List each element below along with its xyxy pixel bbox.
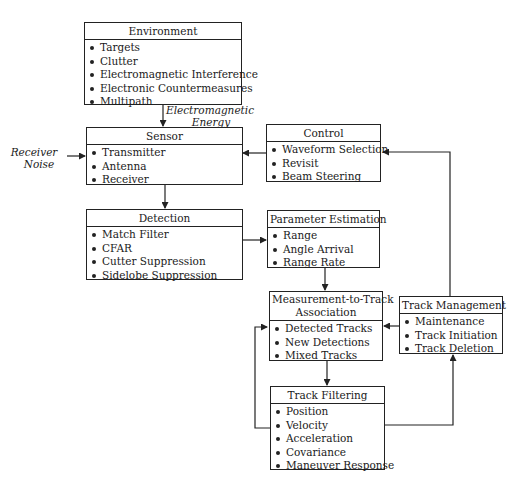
control-items: Waveform Selection Revisit Beam Steering — [267, 142, 380, 185]
sensor-title: Sensor — [87, 128, 242, 145]
em-energy-label: Electromagnetic Energy — [166, 104, 242, 128]
arrow-management-to-control — [383, 152, 450, 296]
association-title: Measurement-to-Track Association — [270, 292, 382, 321]
list-item: Covariance — [275, 446, 384, 460]
list-item: Sidelobe Suppression — [91, 269, 242, 283]
track-management-box: Track Management Maintenance Track Initi… — [399, 296, 503, 354]
list-item: Waveform Selection — [271, 143, 380, 157]
list-item: Range Rate — [272, 256, 379, 270]
list-item: Targets — [89, 41, 241, 55]
track-filtering-title: Track Filtering — [271, 387, 384, 404]
list-item: Antenna — [91, 160, 242, 174]
list-item: New Detections — [274, 336, 382, 350]
list-item: Maneuver Response — [275, 459, 384, 473]
list-item: Position — [275, 405, 384, 419]
list-item: Clutter — [89, 55, 241, 69]
parameter-estimation-title: Parameter Estimation — [268, 211, 379, 228]
sensor-box: Sensor Transmitter Antenna Receiver — [86, 127, 243, 185]
control-box: Control Waveform Selection Revisit Beam … — [266, 124, 381, 182]
track-management-title: Track Management — [400, 297, 502, 314]
arrow-filtering-to-association — [255, 327, 270, 428]
list-item: Transmitter — [91, 146, 242, 160]
list-item: Mixed Tracks — [274, 349, 382, 363]
connector-lines — [0, 0, 529, 496]
list-item: Receiver — [91, 173, 242, 187]
list-item: Velocity — [275, 419, 384, 433]
detection-box: Detection Match Filter CFAR Cutter Suppr… — [86, 209, 243, 280]
control-title: Control — [267, 125, 380, 142]
detection-items: Match Filter CFAR Cutter Suppression Sid… — [87, 227, 242, 283]
environment-items: Targets Clutter Electromagnetic Interfer… — [85, 40, 241, 110]
list-item: Track Deletion — [404, 342, 502, 356]
track-filtering-items: Position Velocity Acceleration Covarianc… — [271, 404, 384, 474]
list-item: Electronic Countermeasures — [89, 82, 241, 96]
list-item: Acceleration — [275, 432, 384, 446]
environment-title: Environment — [85, 23, 241, 40]
list-item: Track Initiation — [404, 329, 502, 343]
association-items: Detected Tracks New Detections Mixed Tra… — [270, 321, 382, 364]
list-item: Cutter Suppression — [91, 255, 242, 269]
parameter-estimation-items: Range Angle Arrival Range Rate — [268, 228, 379, 271]
list-item: Angle Arrival — [272, 243, 379, 257]
sensor-items: Transmitter Antenna Receiver — [87, 145, 242, 188]
list-item: Beam Steering — [271, 170, 380, 184]
parameter-estimation-box: Parameter Estimation Range Angle Arrival… — [267, 210, 380, 268]
list-item: Maintenance — [404, 315, 502, 329]
detection-title: Detection — [87, 210, 242, 227]
list-item: CFAR — [91, 242, 242, 256]
list-item: Electromagnetic Interference — [89, 68, 241, 82]
environment-box: Environment Targets Clutter Electromagne… — [84, 22, 242, 105]
list-item: Revisit — [271, 157, 380, 171]
track-management-items: Maintenance Track Initiation Track Delet… — [400, 314, 502, 357]
arrow-filtering-to-management — [384, 355, 453, 425]
list-item: Match Filter — [91, 228, 242, 242]
list-item: Detected Tracks — [274, 322, 382, 336]
receiver-noise-label: Receiver Noise — [2, 146, 66, 170]
list-item: Range — [272, 229, 379, 243]
track-filtering-box: Track Filtering Position Velocity Accele… — [270, 386, 385, 470]
association-box: Measurement-to-Track Association Detecte… — [269, 291, 383, 361]
